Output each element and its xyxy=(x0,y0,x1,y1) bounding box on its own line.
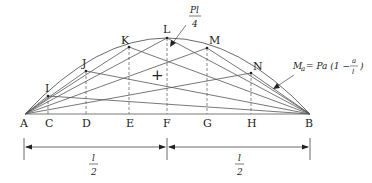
label-i: I xyxy=(45,82,49,95)
arrow-head-icon xyxy=(273,83,280,89)
label-j: J xyxy=(81,57,86,70)
label-l: L xyxy=(163,23,171,36)
label-n: N xyxy=(253,60,263,73)
formula-subscript: a xyxy=(301,65,305,73)
formula-close: ) xyxy=(359,61,364,71)
formula-frac-den: l xyxy=(352,68,354,76)
peak-numerator: Pl xyxy=(189,5,199,15)
dim-left-den: 2 xyxy=(90,167,97,177)
label-m: M xyxy=(209,34,220,47)
formula-frac-num: a xyxy=(352,57,356,65)
label-c: C xyxy=(45,117,53,130)
dim-right-num: l xyxy=(238,153,241,163)
dimension-lines xyxy=(24,138,310,160)
moment-diagram: A B C D E F G H I J K L M N + Pl 4 M a =… xyxy=(0,0,372,183)
peak-leader-line xyxy=(172,25,186,44)
label-b: B xyxy=(305,117,313,130)
label-k: K xyxy=(121,34,130,47)
label-e: E xyxy=(126,117,134,130)
label-h: H xyxy=(247,117,257,130)
label-a: A xyxy=(19,117,29,130)
diagram-lines xyxy=(25,38,310,114)
label-f: F xyxy=(163,117,171,130)
label-g: G xyxy=(203,117,212,130)
peak-denominator: 4 xyxy=(191,19,198,29)
formula-rhs: = Pa (1 − xyxy=(306,61,350,71)
label-d: D xyxy=(82,117,91,130)
formula-leader-line xyxy=(276,75,294,87)
dim-right-den: 2 xyxy=(236,167,243,177)
dim-left-num: l xyxy=(92,153,95,163)
positive-sign: + xyxy=(151,66,164,84)
